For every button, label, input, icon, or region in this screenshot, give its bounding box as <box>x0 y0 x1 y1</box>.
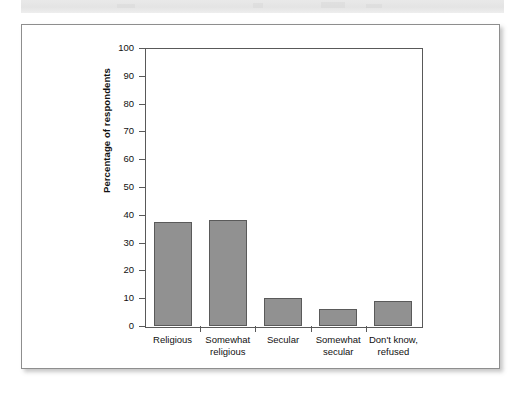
x-axis-tick-mark <box>255 326 256 332</box>
y-axis-tick-label: 30 <box>123 237 134 248</box>
scan-speck <box>366 4 382 8</box>
y-axis-tick-label: 10 <box>123 292 134 303</box>
bar <box>374 301 412 326</box>
x-axis-tick-mark <box>200 326 201 332</box>
y-axis-tick-label: 50 <box>123 181 134 192</box>
y-axis-tick-label: 0 <box>129 320 134 331</box>
x-axis-tick-mark <box>366 326 367 332</box>
bar <box>209 220 247 326</box>
scan-speck <box>117 4 135 8</box>
y-axis-tick-label: 90 <box>123 70 134 81</box>
bar-chart: Percentage of respondents 01020304050607… <box>22 25 501 370</box>
scan-speck <box>321 2 345 8</box>
y-axis-tick-label: 20 <box>123 264 134 275</box>
y-axis-tick-label: 60 <box>123 153 134 164</box>
y-axis-tick-label: 40 <box>123 209 134 220</box>
y-axis-title: Percentage of respondents <box>101 41 112 221</box>
x-axis-tick-mark <box>311 326 312 332</box>
y-axis-tick-label: 80 <box>123 98 134 109</box>
bar <box>319 309 357 326</box>
x-axis-tick-label: Don't know, refused <box>360 334 427 357</box>
scan-banner-strip <box>21 0 504 13</box>
y-axis-tick-label: 70 <box>123 125 134 136</box>
figure-panel: Percentage of respondents 01020304050607… <box>21 24 500 369</box>
scan-speck <box>253 3 263 8</box>
y-axis-tick-label: 100 <box>118 42 134 53</box>
bar <box>154 222 192 326</box>
bar <box>264 298 302 326</box>
